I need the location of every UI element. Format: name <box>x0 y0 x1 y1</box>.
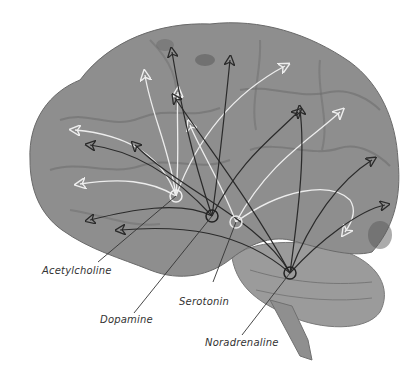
brain-illustration: Acetylcholine Dopamine Serotonin Noradre… <box>0 0 420 374</box>
brain-drawing <box>0 0 420 374</box>
label-acetylcholine: Acetylcholine <box>42 265 112 276</box>
label-noradrenaline: Noradrenaline <box>205 337 279 348</box>
cerebrum <box>30 23 399 276</box>
label-dopamine: Dopamine <box>100 314 153 325</box>
label-serotonin: Serotonin <box>179 296 229 307</box>
